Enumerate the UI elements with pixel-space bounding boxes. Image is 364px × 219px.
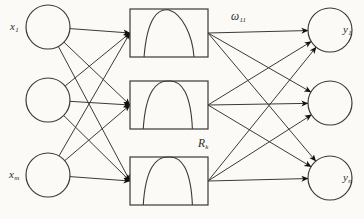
input-label-xm: xm bbox=[9, 169, 19, 180]
edges-hidden-to-output bbox=[208, 31, 316, 181]
edge-r2-to-y2 bbox=[208, 103, 308, 105]
edge-r3-to-y2 bbox=[208, 115, 311, 181]
edge-r1-to-y2 bbox=[208, 33, 311, 92]
edge-x1-to-r2 bbox=[64, 42, 130, 105]
output-label-yn: yn bbox=[343, 172, 351, 183]
network-diagram-canvas bbox=[0, 0, 364, 219]
edge-r3-to-y1 bbox=[208, 47, 316, 181]
edge-r1-to-yn bbox=[208, 33, 316, 161]
edge-x1-to-r1 bbox=[70, 29, 130, 33]
input-node-x1 bbox=[26, 5, 70, 49]
hidden-unit-box-r2 bbox=[130, 81, 208, 129]
hidden-layer-label-rk: Rk bbox=[198, 138, 208, 150]
input-node-x2 bbox=[26, 78, 70, 122]
edge-r2-to-yn bbox=[208, 105, 311, 167]
input-label-x1: x1 bbox=[10, 21, 18, 32]
input-node-xm bbox=[26, 153, 70, 197]
hidden-unit-boxes bbox=[130, 9, 208, 205]
edge-x2-to-r1 bbox=[65, 33, 130, 86]
output-label-y1: y1 bbox=[343, 24, 351, 35]
edge-r3-to-yn bbox=[208, 179, 308, 181]
input-node-circles bbox=[26, 5, 70, 197]
edge-x2-to-r3 bbox=[64, 115, 130, 181]
rbf-network-figure: x1xmy1ynω11Rk bbox=[0, 0, 364, 219]
edge-xm-to-r3 bbox=[70, 177, 130, 181]
hidden-unit-box-r1 bbox=[130, 9, 208, 57]
edge-x2-to-r2 bbox=[70, 101, 130, 105]
edge-r1-to-y1 bbox=[208, 31, 308, 33]
output-node-y2 bbox=[308, 81, 352, 125]
hidden-unit-box-r3 bbox=[130, 157, 208, 205]
edge-xm-to-r2 bbox=[65, 105, 130, 161]
weight-label-omega-11: ω11 bbox=[231, 11, 246, 23]
